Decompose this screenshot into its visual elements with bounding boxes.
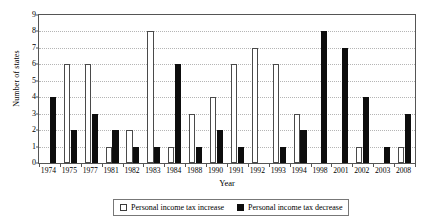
bar-increase <box>210 97 216 163</box>
x-axis-tick-label: 2002 <box>354 167 369 175</box>
y-axis-tick-mark <box>36 80 39 81</box>
x-axis-tick-label: 1993 <box>271 167 286 175</box>
bar-decrease <box>280 147 286 163</box>
bar-increase <box>64 64 70 163</box>
x-axis-tick-mark <box>352 163 353 167</box>
y-axis-label: Number of states <box>12 19 21 139</box>
x-axis-tick-mark <box>60 163 61 167</box>
x-axis-tick-mark <box>143 163 144 167</box>
bar-group <box>60 15 81 163</box>
y-axis-tick-mark <box>36 64 39 65</box>
bar-group <box>248 15 269 163</box>
bar-decrease <box>50 97 56 163</box>
bar-decrease <box>196 147 202 163</box>
bar-group <box>227 15 248 163</box>
bar-increase <box>189 114 195 163</box>
x-axis-tick-label: 1988 <box>187 167 202 175</box>
x-axis-tick-mark <box>415 163 416 167</box>
x-axis-tick-label: 1991 <box>229 167 244 175</box>
bar-decrease <box>217 130 223 163</box>
x-axis-tick-mark <box>290 163 291 167</box>
bar-decrease <box>300 130 306 163</box>
bar-decrease <box>363 97 369 163</box>
bar-decrease <box>71 130 77 163</box>
legend-item-decrease: Personal income tax decrease <box>237 203 342 212</box>
bar-group <box>123 15 144 163</box>
y-axis-tick-mark <box>36 97 39 98</box>
bar-group <box>352 15 373 163</box>
bar-group <box>269 15 290 163</box>
bar-increase <box>356 147 362 163</box>
x-axis-tick-label: 2003 <box>375 167 390 175</box>
bar-group <box>143 15 164 163</box>
y-axis-tick-mark <box>36 15 39 16</box>
bar-increase <box>294 114 300 163</box>
x-axis-tick-label: 1982 <box>124 167 139 175</box>
x-axis-tick-label: 1983 <box>145 167 160 175</box>
bar-group <box>81 15 102 163</box>
bar-group <box>164 15 185 163</box>
bar-decrease <box>112 130 118 163</box>
bar-group <box>394 15 415 163</box>
x-axis-tick-label: 1998 <box>312 167 327 175</box>
bar-decrease <box>175 64 181 163</box>
bar-decrease <box>321 31 327 163</box>
x-axis-tick-label: 1975 <box>62 167 77 175</box>
x-axis-label: Year <box>38 178 416 188</box>
bar-series-container <box>39 15 415 163</box>
bar-increase <box>168 147 174 163</box>
bar-increase <box>273 64 279 163</box>
x-axis-tick-label: 1990 <box>208 167 223 175</box>
x-axis-tick-mark <box>102 163 103 167</box>
chart-figure: Number of states 0123456789 Year Persona… <box>0 0 426 223</box>
legend-label-increase: Personal income tax increase <box>131 203 224 212</box>
bar-increase <box>106 147 112 163</box>
bar-increase <box>231 64 237 163</box>
bar-increase <box>147 31 153 163</box>
x-axis-tick-mark <box>311 163 312 167</box>
bar-group <box>290 15 311 163</box>
bar-decrease <box>384 147 390 163</box>
bar-decrease <box>405 114 411 163</box>
bar-increase <box>85 64 91 163</box>
bar-increase <box>126 130 132 163</box>
bar-group <box>373 15 394 163</box>
x-axis-tick-mark <box>373 163 374 167</box>
x-axis-tick-mark <box>123 163 124 167</box>
x-axis-tick-mark <box>269 163 270 167</box>
bar-group <box>311 15 332 163</box>
y-axis-tick-mark <box>36 146 39 147</box>
bar-decrease <box>154 147 160 163</box>
x-axis-tick-label: 2008 <box>396 167 411 175</box>
x-axis-tick-label: 1992 <box>250 167 265 175</box>
x-axis-tick-mark <box>248 163 249 167</box>
x-axis-tick-mark <box>39 163 40 167</box>
x-axis-tick-label: 1994 <box>292 167 307 175</box>
legend-swatch-decrease-icon <box>237 204 244 211</box>
legend-swatch-increase-icon <box>120 204 127 211</box>
x-axis-tick-label: 1981 <box>104 167 119 175</box>
bar-group <box>39 15 60 163</box>
x-axis-tick-mark <box>81 163 82 167</box>
legend-label-decrease: Personal income tax decrease <box>248 203 342 212</box>
bar-increase <box>398 147 404 163</box>
y-axis-tick-mark <box>36 113 39 114</box>
x-axis-tick-mark <box>394 163 395 167</box>
x-axis-tick-label: 1974 <box>41 167 56 175</box>
x-axis-tick-mark <box>206 163 207 167</box>
x-axis-tick-mark <box>227 163 228 167</box>
x-axis-tick-label: 1977 <box>83 167 98 175</box>
x-axis-tick-mark <box>185 163 186 167</box>
bar-group <box>331 15 352 163</box>
y-axis-tick-mark <box>36 47 39 48</box>
y-axis-tick-mark <box>36 130 39 131</box>
y-axis-tick-mark <box>36 31 39 32</box>
legend-item-increase: Personal income tax increase <box>120 203 224 212</box>
bar-decrease <box>238 147 244 163</box>
x-axis-tick-mark <box>331 163 332 167</box>
bar-group <box>206 15 227 163</box>
chart-legend: Personal income tax increase Personal in… <box>113 199 349 216</box>
bar-group <box>102 15 123 163</box>
bar-increase <box>252 48 258 163</box>
bar-decrease <box>92 114 98 163</box>
